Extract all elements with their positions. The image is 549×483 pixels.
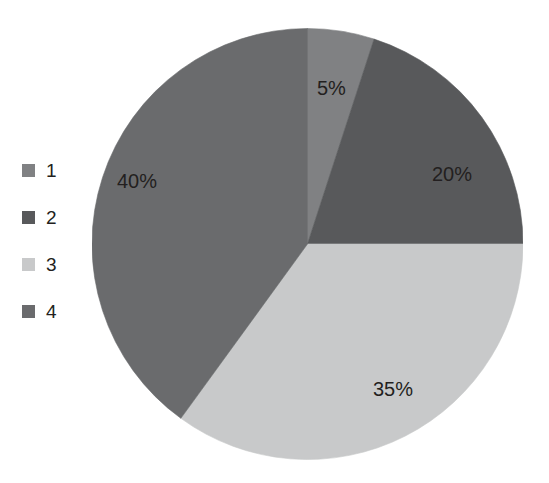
legend-item-2[interactable]: 2 [22,209,80,225]
legend-item-label: 2 [46,208,57,227]
legend-swatch-icon [22,211,35,224]
pie-area: 5% 20% 35% 40% [92,28,523,460]
legend-item-label: 1 [46,161,57,180]
slice-label-4: 40% [117,171,157,191]
legend-item-1[interactable]: 1 [22,162,80,178]
slice-label-2: 20% [432,164,472,184]
legend-swatch-icon [22,258,35,271]
chart-legend: 1 2 3 4 [22,162,80,350]
legend-swatch-icon [22,305,35,318]
pie-svg [92,28,523,460]
legend-item-label: 4 [46,302,57,321]
pie-slices [92,29,523,460]
legend-swatch-icon [22,164,35,177]
pie-chart: 1 2 3 4 5% 20% 35% 40% [0,0,549,483]
legend-item-4[interactable]: 4 [22,303,80,319]
slice-label-1: 5% [317,78,346,98]
legend-item-label: 3 [46,255,57,274]
slice-label-3: 35% [373,379,413,399]
legend-item-3[interactable]: 3 [22,256,80,272]
